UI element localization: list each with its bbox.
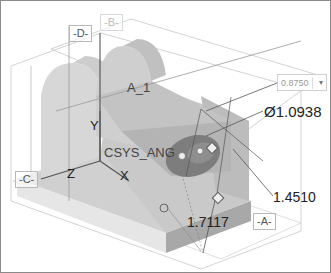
graphics-viewport[interactable]: -D- -B- -C- -A- A_1 CSYS_ANG X Y Z 0.875… [0, 0, 331, 273]
drag-handle-icon[interactable] [179, 153, 186, 160]
datum-tag-b[interactable]: -B- [100, 14, 123, 31]
dimension-offset[interactable]: 1.7117 [187, 215, 229, 229]
dimension-value-input[interactable]: 0.8750 ▾ [277, 74, 327, 91]
datum-tag-d[interactable]: -D- [69, 25, 92, 42]
dimension-input-value[interactable]: 0.8750 [281, 78, 309, 88]
dimension-height[interactable]: 1.4510 [273, 190, 316, 204]
csys-axis-z: Z [67, 167, 75, 180]
dimension-diameter[interactable]: Ø1.0938 [264, 104, 322, 119]
dropdown-arrow-icon[interactable]: ▾ [319, 78, 323, 87]
csys-axis-x: X [120, 169, 129, 182]
datum-tag-a[interactable]: -A- [253, 213, 276, 230]
axis-label-a1: A_1 [127, 81, 150, 94]
csys-label: CSYS_ANG [104, 146, 175, 159]
model-scene [1, 1, 331, 273]
datum-tag-c[interactable]: -C- [15, 171, 38, 188]
csys-axis-y: Y [90, 119, 99, 132]
drag-handle-icon[interactable] [197, 148, 203, 154]
input-separator [312, 77, 313, 89]
